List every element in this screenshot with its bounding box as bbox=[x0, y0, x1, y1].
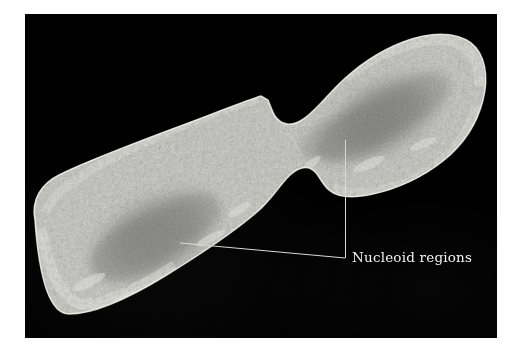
micrograph-plate: Nucleoid regions bbox=[25, 14, 497, 338]
bacterium-image bbox=[25, 14, 497, 338]
bacterium-body bbox=[25, 14, 497, 338]
nucleoid-regions-label: Nucleoid regions bbox=[352, 250, 472, 265]
micrograph-figure: Nucleoid regions bbox=[0, 0, 518, 363]
